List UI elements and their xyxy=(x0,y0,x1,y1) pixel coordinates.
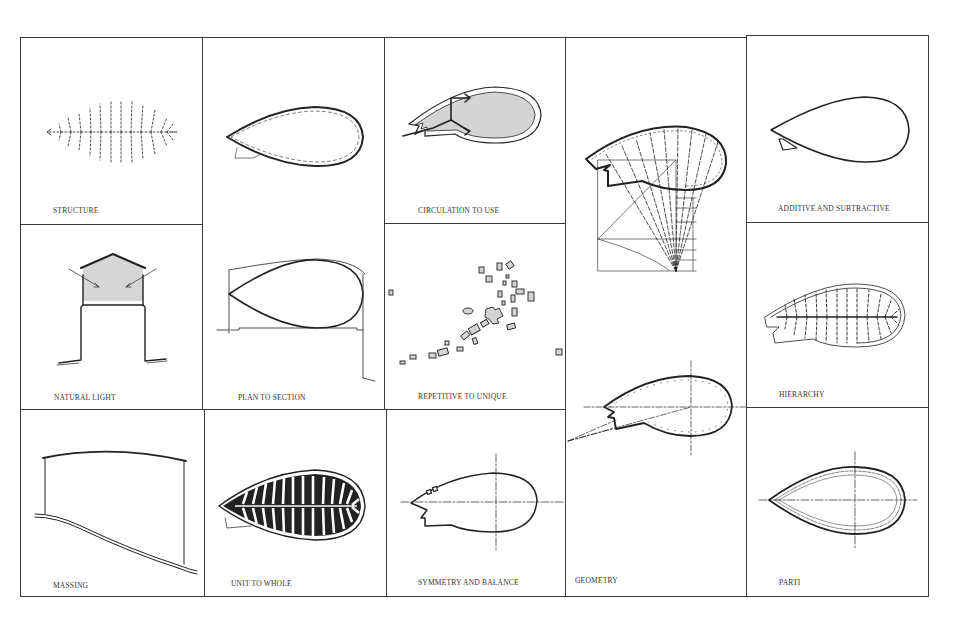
label-hierarchy: HIERARCHY xyxy=(779,390,825,399)
label-geometry: GEOMETRY xyxy=(575,576,618,585)
cell-natural-light: NATURAL LIGHT xyxy=(20,224,203,410)
plan-to-section-drawing xyxy=(203,38,386,411)
cell-massing: MASSING xyxy=(20,409,205,597)
label-circulation-to-use: CIRCULATION TO USE xyxy=(418,206,499,215)
cell-hierarchy: HIERARCHY xyxy=(746,222,929,408)
unit-to-whole-drawing xyxy=(205,410,388,598)
additive-and-subtractive-drawing xyxy=(747,36,930,224)
structure-drawing xyxy=(21,38,204,226)
massing-drawing xyxy=(21,410,206,598)
symmetry-and-balance-drawing xyxy=(387,410,567,598)
parti-diagram-sheet: STRUCTURE NATURAL LIGHT xyxy=(0,0,975,621)
label-parti: PARTI xyxy=(779,578,801,587)
cell-circulation-to-use: CIRCULATION TO USE xyxy=(384,37,566,224)
label-repetitive-to-unique: REPETITIVE TO UNIQUE xyxy=(418,392,507,401)
cell-symmetry-and-balance: SYMMETRY AND BALANCE xyxy=(386,409,566,597)
label-plan-to-section: PLAN TO SECTION xyxy=(238,393,306,402)
label-structure: STRUCTURE xyxy=(53,206,99,215)
cell-structure: STRUCTURE xyxy=(20,37,203,225)
cell-unit-to-whole: UNIT TO WHOLE xyxy=(204,409,387,597)
label-massing: MASSING xyxy=(53,581,88,590)
cell-repetitive-to-unique: REPETITIVE TO UNIQUE xyxy=(384,223,566,410)
hierarchy-drawing xyxy=(747,223,930,409)
label-natural-light: NATURAL LIGHT xyxy=(54,393,116,402)
cell-additive-and-subtractive: ADDITIVE AND SUBTRACTIVE xyxy=(746,35,929,223)
label-unit-to-whole: UNIT TO WHOLE xyxy=(231,579,292,588)
cell-parti: PARTI xyxy=(746,407,929,597)
cell-geometry: GEOMETRY xyxy=(565,37,747,597)
cell-plan-to-section: PLAN TO SECTION xyxy=(202,37,385,410)
natural-light-drawing xyxy=(21,225,204,411)
circulation-to-use-drawing xyxy=(385,38,567,225)
parti-drawing xyxy=(747,408,930,598)
geometry-drawing xyxy=(566,38,748,598)
repetitive-to-unique-drawing xyxy=(385,224,567,411)
label-symmetry-and-balance: SYMMETRY AND BALANCE xyxy=(418,578,519,587)
label-additive-and-subtractive: ADDITIVE AND SUBTRACTIVE xyxy=(778,204,890,213)
